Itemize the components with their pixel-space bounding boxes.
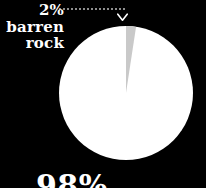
pie-chart-screenshot: 2% barren rock 98%	[0, 0, 206, 188]
bottom-caption: 98%	[36, 171, 108, 188]
callout-word-line-1: barren	[0, 19, 64, 36]
callout-label: 2% barren rock	[0, 2, 64, 52]
pie-chart	[59, 26, 193, 160]
dotted-leader-line	[58, 8, 125, 10]
callout-word-line-2: rock	[0, 35, 64, 52]
callout-percent: 2%	[0, 2, 64, 19]
chevron-down-icon	[117, 13, 128, 22]
